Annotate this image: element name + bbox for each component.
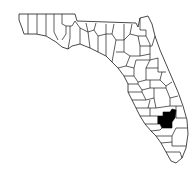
florida-county-map [0, 0, 195, 185]
state-outline [19, 14, 188, 163]
